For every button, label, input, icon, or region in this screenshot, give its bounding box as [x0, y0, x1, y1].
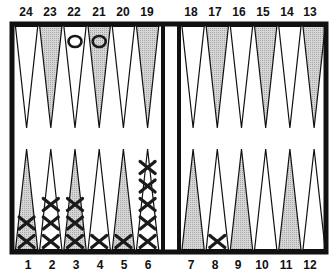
point-label-7: 7 [179, 258, 203, 272]
point-label-14: 14 [275, 5, 299, 19]
point-15[interactable] [255, 27, 277, 129]
point-13[interactable] [303, 27, 325, 129]
point-label-13: 13 [298, 5, 322, 19]
board-graphic [0, 0, 335, 276]
point-label-2: 2 [40, 258, 64, 272]
point-label-15: 15 [251, 5, 275, 19]
point-label-18: 18 [179, 5, 203, 19]
point-label-19: 19 [135, 5, 159, 19]
point-23[interactable] [40, 27, 62, 129]
point-label-11: 11 [274, 258, 298, 272]
point-label-22: 22 [62, 5, 86, 19]
point-label-17: 17 [203, 5, 227, 19]
point-label-20: 20 [111, 5, 135, 19]
point-label-3: 3 [64, 258, 88, 272]
point-label-21: 21 [87, 5, 111, 19]
point-label-10: 10 [250, 258, 274, 272]
point-label-24: 24 [14, 5, 38, 19]
point-16[interactable] [230, 27, 252, 129]
point-label-4: 4 [88, 258, 112, 272]
point-18[interactable] [182, 27, 204, 129]
point-20[interactable] [112, 27, 134, 129]
point-19[interactable] [137, 27, 159, 129]
point-7[interactable] [182, 149, 204, 250]
point-9[interactable] [230, 149, 252, 250]
point-11[interactable] [279, 149, 301, 250]
point-24[interactable] [16, 27, 38, 129]
backgammon-board: 24 23 22 21 20 19 18 17 16 15 14 13 1 2 … [0, 0, 335, 276]
point-label-16: 16 [227, 5, 251, 19]
point-label-1: 1 [16, 258, 40, 272]
point-label-12: 12 [298, 258, 322, 272]
point-label-5: 5 [112, 258, 136, 272]
point-14[interactable] [279, 27, 301, 129]
point-10[interactable] [255, 149, 277, 250]
point-label-8: 8 [203, 258, 227, 272]
point-label-9: 9 [226, 258, 250, 272]
point-12[interactable] [303, 149, 325, 250]
point-label-6: 6 [136, 258, 160, 272]
point-17[interactable] [206, 27, 228, 129]
point-label-23: 23 [38, 5, 62, 19]
